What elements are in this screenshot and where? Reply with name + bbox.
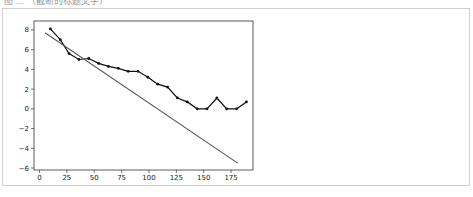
y-tick-label: 2 bbox=[25, 86, 29, 94]
series-fit-line bbox=[45, 33, 238, 163]
plot-area bbox=[34, 21, 253, 170]
data-point-marker bbox=[87, 57, 90, 60]
data-point-marker bbox=[166, 86, 169, 89]
data-point-marker bbox=[77, 58, 80, 61]
data-point-marker bbox=[146, 76, 149, 79]
data-point-marker bbox=[235, 107, 238, 110]
y-tick-label: −2 bbox=[19, 125, 29, 133]
data-point-marker bbox=[206, 107, 209, 110]
y-tick-label: 6 bbox=[25, 46, 30, 54]
data-point-marker bbox=[49, 27, 52, 30]
y-tick-label: 4 bbox=[25, 66, 30, 74]
data-point-marker bbox=[196, 107, 199, 110]
data-point-marker bbox=[137, 70, 140, 73]
x-tick-label: 175 bbox=[224, 174, 237, 182]
y-tick-label: −6 bbox=[19, 165, 30, 173]
data-point-marker bbox=[225, 107, 228, 110]
data-point-marker bbox=[107, 65, 110, 68]
data-point-marker bbox=[117, 67, 120, 70]
data-point-marker bbox=[127, 70, 130, 73]
y-tick-label: 0 bbox=[25, 105, 29, 113]
data-point-marker bbox=[245, 101, 248, 104]
y-tick-label: −4 bbox=[19, 145, 30, 153]
data-point-marker bbox=[186, 101, 189, 104]
x-tick-label: 100 bbox=[142, 174, 155, 182]
data-point-marker bbox=[97, 62, 100, 65]
x-tick-label: 50 bbox=[90, 174, 99, 182]
x-tick-label: 25 bbox=[62, 174, 71, 182]
data-point-marker bbox=[176, 97, 179, 100]
data-point-marker bbox=[156, 83, 159, 86]
x-tick-label: 75 bbox=[117, 174, 126, 182]
x-tick-label: 125 bbox=[170, 174, 183, 182]
x-tick-label: 0 bbox=[37, 174, 41, 182]
y-tick-label: 8 bbox=[25, 26, 29, 34]
data-point-marker bbox=[215, 97, 218, 100]
line-chart: 025507510012515017586420−2−4−6 bbox=[0, 0, 473, 197]
data-point-marker bbox=[68, 52, 71, 55]
x-tick-label: 150 bbox=[197, 174, 210, 182]
data-point-marker bbox=[59, 38, 62, 41]
